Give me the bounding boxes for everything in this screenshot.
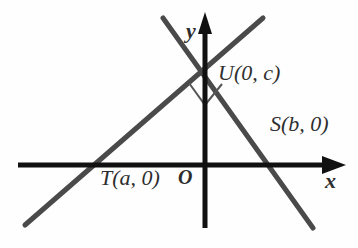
point-label-U: U(0, c) xyxy=(218,62,280,84)
origin-label: O xyxy=(178,167,192,187)
geometry-figure: U(0, c) S(b, 0) T(a, 0) O x y xyxy=(0,0,358,248)
point-label-T: T(a, 0) xyxy=(100,167,160,189)
x-axis-label: x xyxy=(325,170,336,192)
line-through-T-and-U xyxy=(25,18,263,225)
y-axis-arrow-icon xyxy=(198,12,212,34)
y-axis-label: y xyxy=(186,20,196,42)
point-label-S: S(b, 0) xyxy=(270,113,329,135)
